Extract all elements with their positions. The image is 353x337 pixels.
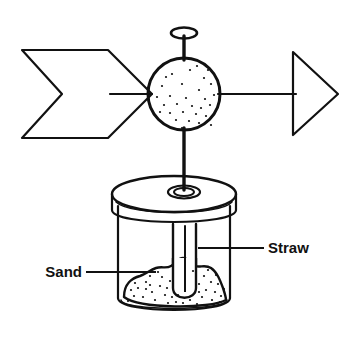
- figure-canvas: Straw Sand: [0, 0, 353, 337]
- ball-stipple: [156, 65, 215, 129]
- triangle-head-icon: [293, 52, 338, 135]
- sand-mound: [124, 258, 226, 307]
- callout-straw: Straw: [198, 239, 309, 256]
- weather-vane-figure: Straw Sand: [0, 0, 353, 337]
- straw-label: Straw: [268, 239, 309, 256]
- stippled-ball: [148, 58, 220, 130]
- vane-assembly: [22, 28, 338, 191]
- sand-label: Sand: [45, 263, 82, 280]
